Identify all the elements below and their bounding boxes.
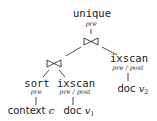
leaf-doc1-text: doc [64, 105, 82, 116]
node-ixscan-left-label: ixscan [57, 78, 95, 89]
leaf-doc1-subscript: 1 [90, 110, 94, 118]
leaf-doc2-subscript: 2 [144, 88, 148, 96]
node-sort-label: sort [24, 78, 49, 89]
leaf-doc-v1: doc v1 [64, 106, 95, 118]
leaf-context-var: c [49, 105, 55, 116]
node-unique-annotation: pre [85, 21, 96, 28]
leaf-doc2-text: doc [118, 83, 136, 94]
node-unique-label: unique [73, 8, 111, 19]
leaf-doc1-var: v1 [85, 105, 95, 116]
join-icon [47, 60, 61, 67]
leaf-context-text: context [8, 105, 46, 116]
node-sort-annotation: pre [30, 89, 41, 96]
edge-join-sort [43, 70, 49, 77]
query-plan-diagram: unique pre ixscan pre / post sort pre ix… [0, 0, 157, 121]
leaf-doc-v2: doc v2 [118, 84, 149, 96]
leaf-doc2-var: v2 [139, 83, 149, 94]
node-ixscan-right-label: ixscan [110, 53, 148, 64]
join-icon [84, 38, 98, 45]
edge-join-join [66, 47, 81, 56]
node-ixscan-right-annotation: pre / post [112, 65, 143, 72]
leaf-context: context c [8, 106, 55, 116]
edge-join-ixscan-left [59, 70, 65, 77]
node-ixscan-left-annotation: pre / post [59, 89, 90, 96]
